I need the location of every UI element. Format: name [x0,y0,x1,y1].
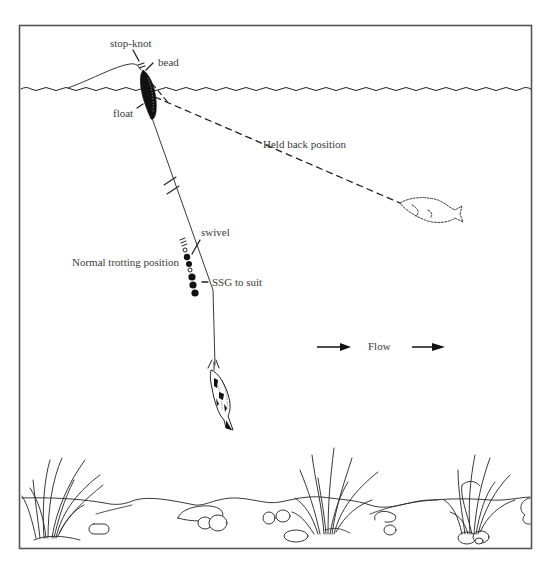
label-flow: Flow [368,341,391,352]
swivel-ring [183,248,187,252]
label-float: float [113,108,133,119]
trotting-rig-diagram [0,0,544,564]
diagram-frame [20,26,532,549]
label-normal-trotting-position: Normal trotting position [72,257,179,268]
label-bead: bead [158,57,179,68]
label-swivel: swivel [201,227,230,238]
label-ssg-to-suit: SSG to suit [212,277,262,288]
label-held-back-position: Held back position [263,139,346,150]
label-stop-knot: stop-knot [110,38,152,49]
